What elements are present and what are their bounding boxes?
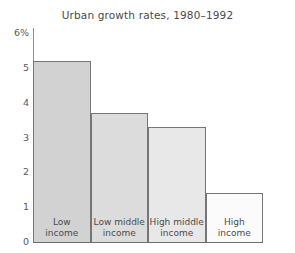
y-tick-label: 1 — [1, 202, 29, 212]
bars-group: Low incomeLow middle incomeHigh middle i… — [33, 28, 263, 242]
y-tick-label: 4 — [1, 98, 29, 108]
bar-2[interactable]: Low middle income — [91, 113, 149, 242]
y-tick-label: 3 — [1, 133, 29, 143]
bar-category-label: Low income — [34, 217, 90, 239]
y-tick-label: 6% — [1, 28, 29, 38]
y-tick-label: 5 — [1, 63, 29, 73]
bar-chart-figure: Urban growth rates, 1980–1992 0123456% L… — [0, 0, 295, 253]
bar-category-label: Low middle income — [92, 217, 148, 239]
bar-category-label: High middle income — [149, 217, 205, 239]
chart-title: Urban growth rates, 1980–1992 — [0, 9, 295, 21]
bar-1[interactable]: Low income — [33, 61, 91, 242]
x-axis-line — [33, 242, 263, 243]
y-tick-label: 2 — [1, 167, 29, 177]
bar-4[interactable]: High income — [206, 193, 264, 242]
bar-category-label: High income — [207, 217, 263, 239]
bar-3[interactable]: High middle income — [148, 127, 206, 242]
y-axis-tick-labels: 0123456% — [0, 0, 29, 253]
y-tick-label: 0 — [1, 237, 29, 247]
